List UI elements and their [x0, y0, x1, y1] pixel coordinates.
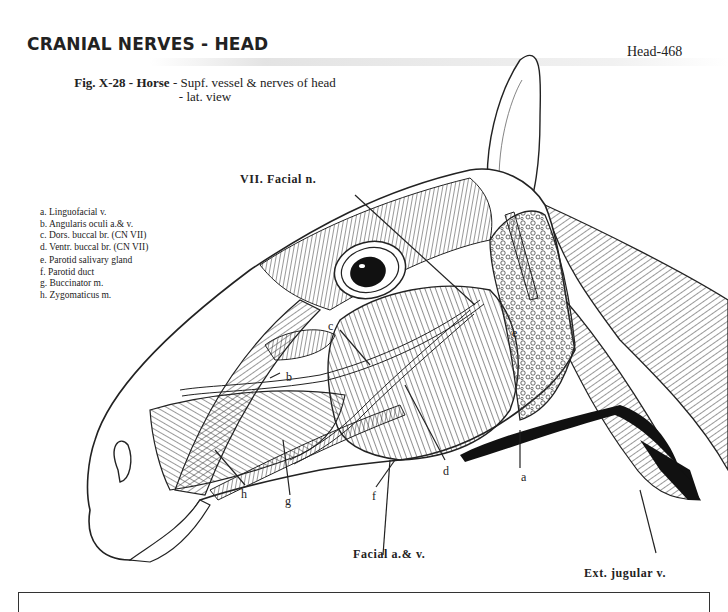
label-d: d — [443, 464, 449, 478]
label-g: g — [285, 494, 291, 508]
callout-ext-jugular-vein: Ext. jugular v. — [584, 566, 666, 581]
label-e: e — [512, 326, 517, 340]
label-a: a — [521, 470, 527, 484]
label-c: c — [328, 319, 333, 333]
label-b: b — [286, 370, 292, 384]
callout-facial-artery-vein: Facial a.& v. — [353, 547, 425, 562]
label-h: h — [241, 487, 247, 501]
label-f: f — [372, 489, 376, 503]
bottom-frame — [18, 592, 710, 612]
callout-facial-nerve: VII. Facial n. — [240, 172, 316, 187]
